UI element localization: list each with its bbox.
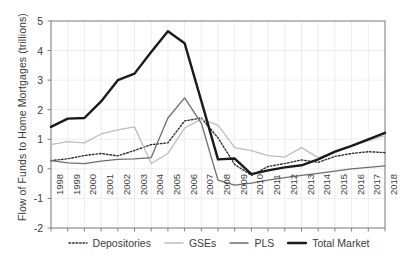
y-tick-label: 2 [23,105,43,115]
x-tick-label: 2015 [339,174,348,195]
y-tick-label: -1 [23,193,43,203]
plot-area [0,0,400,260]
legend-label: GSEs [189,237,216,249]
x-tick-label: 2008 [222,174,231,195]
legend-label: Depositories [93,237,151,249]
chart-figure: Flow of Funds to Home Mortgages (trillio… [0,0,400,260]
x-tick-label: 1998 [55,174,64,195]
y-tick-label: 5 [23,16,43,26]
chart-legend: DepositoriesGSEsPLSTotal Market [51,234,386,252]
y-tick-label: 1 [23,134,43,144]
x-tick-label: 2017 [372,174,381,195]
y-tick-label: -2 [23,223,43,233]
x-tick-label: 2009 [239,174,248,195]
x-tick-label: 2014 [322,174,331,195]
legend-item-gses[interactable]: GSEs [164,237,216,249]
x-tick-label: 2012 [289,174,298,195]
x-tick-label: 2011 [272,175,281,195]
x-tick-label: 2018 [389,174,398,195]
x-tick-label: 2005 [172,174,181,195]
legend-label: PLS [254,237,274,249]
legend-swatch-pls-icon [229,238,249,248]
y-tick-label: 4 [23,46,43,56]
legend-label: Total Market [312,237,369,249]
y-tick-label: 0 [23,164,43,174]
x-tick-label: 2016 [356,174,365,195]
x-tick-label: 2004 [155,174,164,195]
x-tick-label: 2013 [306,174,315,195]
x-tick-label: 2001 [105,174,114,195]
x-tick-label: 2000 [88,174,97,195]
legend-item-pls[interactable]: PLS [229,237,274,249]
x-tick-label: 1999 [72,174,81,195]
y-tick-label: 3 [23,75,43,85]
legend-swatch-gses-icon [164,238,184,248]
x-tick-label: 2010 [255,174,264,195]
x-tick-label: 2002 [122,174,131,195]
legend-swatch-total-market-icon [287,238,307,248]
legend-item-total-market[interactable]: Total Market [287,237,369,249]
x-tick-label: 2007 [205,174,214,195]
legend-swatch-depositories-icon [68,238,88,248]
x-tick-label: 2003 [139,174,148,195]
legend-item-depositories[interactable]: Depositories [68,237,151,249]
x-tick-label: 2006 [189,174,198,195]
